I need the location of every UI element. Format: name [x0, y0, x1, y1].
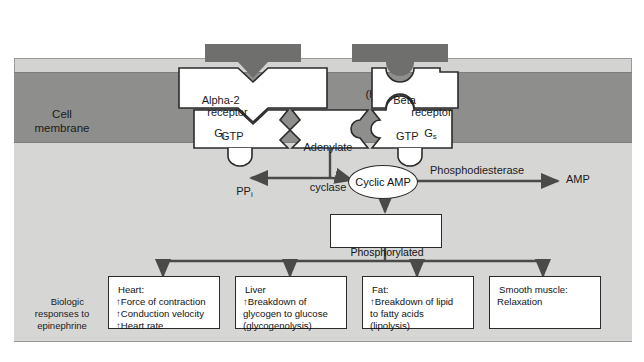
phosphodiesterase-label: Phosphodiesterase: [430, 164, 524, 177]
ppi-label: PPi: [224, 172, 253, 211]
epinephrine-hormone-bar: [352, 44, 448, 62]
response-box-liver: Liver ↑Breakdown of glycogen to glucose …: [235, 276, 347, 329]
beta-receptor-name: Beta: [393, 94, 416, 106]
ppi-subscript: i: [251, 189, 253, 198]
liver-effects-list: ↑Breakdown of glycogen to glucose (glyco…: [243, 296, 328, 332]
response-box-heart: Heart: ↑Force of contraction ↑Conduction…: [108, 276, 220, 329]
biologic-responses-label: Biologic responses to epinephrine: [16, 284, 108, 343]
cell-membrane-text: Cell membrane: [24, 108, 100, 134]
amp-label: AMP: [566, 173, 590, 186]
smooth-muscle-tissue-label: Smooth muscle:: [499, 284, 568, 295]
ppi-text: PP: [236, 185, 251, 197]
heart-effects-list: ↑Force of contraction ↑Conduction veloci…: [116, 296, 206, 332]
adenylate-cyclase-label: Adenylate cyclase: [294, 114, 362, 221]
adenylate-cyclase-line1: Adenylate: [294, 141, 362, 154]
gi-gtp-label: GTP: [221, 130, 244, 143]
gs-subscript: s: [433, 131, 437, 140]
fat-tissue-label: Fat:: [372, 284, 389, 295]
gs-label-text: G: [424, 127, 433, 139]
diagram-canvas: Norepinephrine (hormone) Epinephrine (ho…: [0, 0, 644, 362]
gs-gtp-label: GTP: [396, 130, 419, 143]
alpha2-receptor-name: Alpha-2: [202, 94, 240, 106]
effector-line1: Phosphorylated: [331, 246, 443, 259]
response-box-fat: Fat: ↑Breakdown of lipid to fatty acids …: [362, 276, 474, 329]
membrane-outer-edge: [14, 72, 632, 73]
cyclic-amp-node: Cyclic AMP: [348, 165, 418, 199]
biologic-responses-text: Biologic responses to epinephrine: [35, 296, 89, 331]
heart-tissue-label: Heart:: [118, 284, 144, 295]
liver-tissue-label: Liver: [245, 284, 266, 295]
fat-effects-list: ↑Breakdown of lipid to fatty acids (lipo…: [370, 296, 453, 332]
smooth-muscle-effects-list: Relaxation: [497, 296, 542, 308]
cyclic-amp-label: Cyclic AMP: [355, 176, 411, 188]
phosphorylated-enzymes-box: Phosphorylated enzymes: [330, 214, 442, 248]
response-box-smooth-muscle: Smooth muscle: Relaxation: [489, 276, 601, 329]
cell-membrane-label: Cell membrane: [24, 82, 100, 161]
norepinephrine-hormone-bar: [205, 44, 301, 62]
